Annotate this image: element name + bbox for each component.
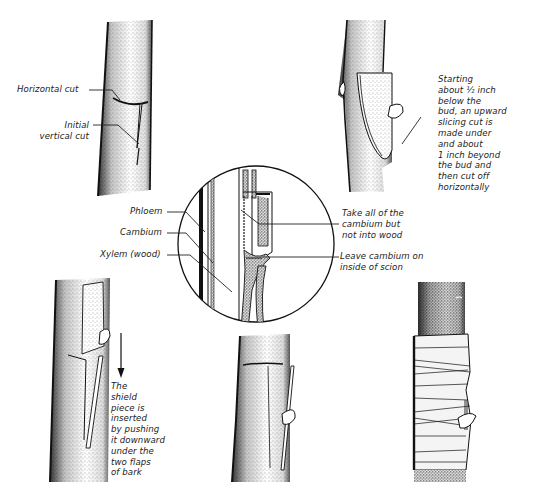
stem-step-2 [338,20,403,192]
label-leave-cambium: Leave cambium on inside of scion [340,251,424,273]
label-phloem: Phloem [130,206,163,217]
stem-step-4 [232,334,295,482]
stem-step-1 [98,20,152,196]
label-shield-note: The shield piece is inserted by pushing … [111,381,165,478]
bud-icon-lower [388,104,403,118]
label-cambium: Cambium [120,227,162,238]
label-take-all-cambium: Take all of the cambium but not into woo… [342,208,404,240]
label-starting-note: Starting about ½ inch below the bud, an … [438,74,507,193]
label-xylem: Xylem (wood) [100,249,161,260]
label-initial-vertical-cut: Initial vertical cut [33,120,89,142]
cross-section-detail [178,160,334,330]
label-horizontal-cut: Horizontal cut [17,84,79,95]
stem-step-5 [414,282,476,482]
